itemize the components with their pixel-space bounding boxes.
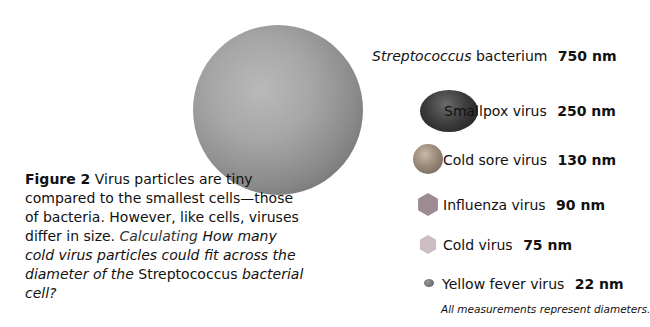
cold-virus-shape	[419, 235, 437, 254]
species-name: Streptococcus	[372, 48, 472, 64]
question-label: Calculating	[120, 228, 198, 244]
label-cold: Cold virus 75 nm	[443, 237, 572, 253]
size-value: 750 nm	[558, 48, 617, 64]
question-species: Streptococcus	[138, 266, 237, 282]
size-value: 250 nm	[557, 103, 616, 119]
virus-name: Cold sore virus	[443, 152, 547, 168]
size-value: 75 nm	[523, 237, 572, 253]
label-smallpox: Smallpox virus 250 nm	[444, 103, 616, 119]
yellow-fever-virus-shape	[424, 279, 434, 287]
influenza-virus-shape	[417, 193, 439, 216]
size-value: 130 nm	[558, 152, 617, 168]
virus-name: Influenza virus	[443, 197, 546, 213]
virus-name: Yellow fever virus	[442, 276, 564, 292]
label-cold-sore: Cold sore virus 130 nm	[443, 152, 616, 168]
size-value: 22 nm	[575, 276, 624, 292]
organism-type: bacterium	[476, 48, 547, 64]
size-value: 90 nm	[556, 197, 605, 213]
label-yellow-fever: Yellow fever virus 22 nm	[442, 276, 624, 292]
virus-name: Cold virus	[443, 237, 513, 253]
label-influenza: Influenza virus 90 nm	[443, 197, 605, 213]
label-streptococcus: Streptococcus bacterium 750 nm	[372, 48, 617, 64]
measurement-note: All measurements represent diameters.	[441, 303, 650, 315]
figure-caption: Figure 2 Virus particles are tiny compar…	[25, 170, 305, 303]
figure-label: Figure 2	[25, 171, 90, 187]
cold-sore-virus-shape	[413, 144, 443, 174]
virus-name: Smallpox virus	[444, 103, 547, 119]
